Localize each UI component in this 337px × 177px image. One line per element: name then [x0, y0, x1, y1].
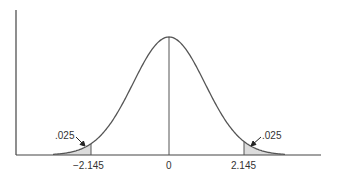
- right-tail-shade: [244, 142, 285, 155]
- distribution-chart: [0, 0, 337, 177]
- tick-label-right: 2.145: [231, 161, 256, 171]
- right-area-label: .025: [262, 131, 281, 141]
- tick-label-center: 0: [166, 161, 172, 171]
- right-area-arrow-icon: [251, 137, 261, 146]
- tick-label-left: −2.145: [73, 161, 104, 171]
- left-area-arrow-icon: [76, 137, 85, 146]
- left-area-label: .025: [55, 131, 74, 141]
